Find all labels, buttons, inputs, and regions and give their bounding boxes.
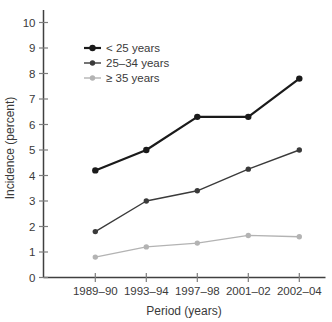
x-tick-label: 1993–94 <box>124 285 169 297</box>
series-line-2 <box>95 235 299 257</box>
data-point <box>144 198 149 203</box>
x-tick-label: 1997–98 <box>175 285 220 297</box>
incidence-line-chart: 0123456789101989–901993–941997–982001–02… <box>0 0 332 322</box>
y-tick-label: 7 <box>29 93 35 105</box>
legend-marker-dot <box>90 75 95 80</box>
data-point <box>92 167 98 173</box>
y-tick-label: 10 <box>23 17 36 29</box>
legend-item-label: < 25 years <box>106 42 160 54</box>
data-point <box>194 114 200 120</box>
data-point <box>297 234 302 239</box>
data-point <box>144 244 149 249</box>
y-tick-label: 3 <box>29 195 35 207</box>
legend-item: 25–34 years <box>84 57 170 69</box>
data-point <box>246 166 251 171</box>
legend-item: ≥ 35 years <box>84 72 160 84</box>
legend-item: < 25 years <box>84 42 160 54</box>
data-point <box>93 254 98 259</box>
axes-layer: 0123456789101989–901993–941997–982001–02… <box>23 10 326 297</box>
x-tick-label: 2002–04 <box>277 285 322 297</box>
y-tick-label: 9 <box>29 42 35 54</box>
x-tick-label: 1989–90 <box>73 285 118 297</box>
series-layer <box>92 75 302 259</box>
figure-container: 0123456789101989–901993–941997–982001–02… <box>0 0 332 322</box>
legend-item-label: ≥ 35 years <box>106 72 160 84</box>
x-axis-title: Period (years) <box>146 304 221 318</box>
x-tick-label: 2001–02 <box>226 285 271 297</box>
data-point <box>245 114 251 120</box>
y-axis-title: Incidence (percent) <box>3 97 17 200</box>
y-tick-label: 8 <box>29 68 35 80</box>
y-tick-label: 1 <box>29 246 35 258</box>
data-point <box>246 233 251 238</box>
legend-item-label: 25–34 years <box>106 57 170 69</box>
data-point <box>297 147 302 152</box>
data-point <box>143 147 149 153</box>
data-point <box>195 240 200 245</box>
data-point <box>195 188 200 193</box>
y-tick-label: 6 <box>29 119 35 131</box>
data-point <box>296 75 302 81</box>
legend-marker-dot <box>89 45 95 51</box>
series-line-0 <box>95 79 299 171</box>
y-tick-label: 0 <box>29 272 35 284</box>
y-tick-label: 4 <box>29 170 36 182</box>
legend-marker-dot <box>90 60 95 65</box>
y-tick-label: 2 <box>29 221 35 233</box>
legend: < 25 years25–34 years≥ 35 years <box>84 42 170 84</box>
data-point <box>93 229 98 234</box>
y-tick-label: 5 <box>29 144 35 156</box>
